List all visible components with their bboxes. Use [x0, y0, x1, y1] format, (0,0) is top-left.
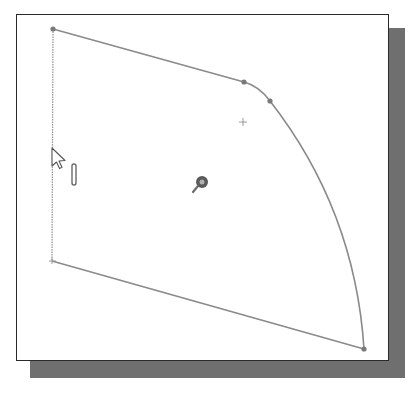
vertical-constraint-icon: [72, 164, 76, 185]
sketch-line-top[interactable]: [53, 29, 244, 82]
sketch-point-top-left[interactable]: [50, 26, 55, 31]
origin-icon: [193, 176, 208, 192]
sketch-point-bottom-left[interactable]: [49, 258, 56, 264]
sketch-point-bottom-right[interactable]: [361, 346, 366, 351]
sketch-line-bottom[interactable]: [52, 261, 364, 349]
sketch-fillet-arc[interactable]: [244, 82, 270, 101]
cursor-arrow-icon: [52, 148, 65, 169]
sketch-point-arc-mid[interactable]: [267, 98, 272, 103]
sketch-canvas[interactable]: [0, 0, 418, 399]
sketch-arc-right[interactable]: [270, 101, 364, 349]
sketch-line-left[interactable]: [52, 29, 53, 261]
arc-center-marker-icon: [239, 118, 247, 126]
sketch-point-arc-start[interactable]: [241, 79, 246, 84]
